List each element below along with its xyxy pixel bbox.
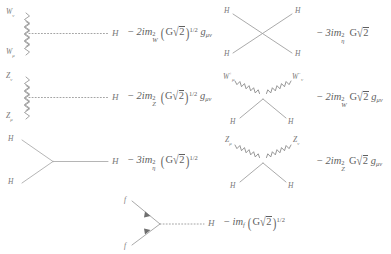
amplitude-quartic-higgs: − 3im2η G√2: [317, 27, 369, 39]
line-label-h-lower: H: [8, 178, 13, 186]
wavy-line-upper: [25, 77, 30, 111]
line-label-w-plus-mu: W+μ: [223, 72, 234, 83]
rule-higgs-higgs-z-z: Zμ Zν H H − 2im2Z G√2 gμν: [200, 128, 391, 192]
wavy-line-w-minus: [265, 78, 292, 97]
wavy-line-lower: [25, 22, 30, 56]
fermion-arrowhead-upper: [144, 212, 151, 218]
solid-line-upper: [22, 140, 53, 162]
line-label-w-mu: Wμ: [6, 48, 15, 58]
line-label-w-nu: Wν: [6, 8, 14, 18]
rule-higgs-higgs-w-w: W+μ W−ν H H − 2im2W G√2 gμν: [200, 64, 391, 128]
wavy-line-w-plus: [234, 78, 261, 97]
line-label-h: H: [112, 28, 119, 38]
amplitude-higgs-fermion-fermion: − imf (G√2)1/2: [224, 216, 285, 231]
rule-higgs-w-w: Wν Wμ H − 2im2W (G√2)1/2 gμν: [0, 0, 200, 64]
amplitude-triple-higgs: − 3im2η (G√2)1/2: [128, 154, 198, 169]
wavy-line-z-nu: [265, 142, 292, 161]
solid-h-line-right: [263, 163, 286, 182]
rule-higgs-fermion-fermion: f f H − imf (G√2)1/2: [100, 192, 340, 254]
solid-h-line-right: [263, 99, 286, 118]
line-label-h-top-left: H: [224, 7, 229, 15]
amplitude-higgs-higgs-w-w: − 2im2W G√2 gμν: [317, 91, 383, 104]
figure-canvas: Wν Wμ H − 2im2W (G√2)1/2 gμν H H H H − 3…: [0, 0, 391, 254]
line-label-h-out: H: [112, 156, 119, 166]
solid-h-line-left: [240, 163, 263, 182]
line-label-h: H: [208, 218, 215, 228]
diagram-higgs-fermion-fermion: [100, 192, 340, 254]
line-label-h-right: H: [288, 118, 293, 126]
line-label-h-right: H: [288, 182, 293, 190]
line-label-h-bottom-left: H: [224, 50, 229, 58]
line-label-z-mu: Zμ: [6, 112, 13, 122]
line-label-z-nu: Zν: [293, 136, 299, 146]
line-label-h-left: H: [230, 182, 235, 190]
rule-quartic-higgs: H H H H − 3im2η G√2: [200, 0, 391, 64]
line-label-fermion-upper: f: [124, 196, 126, 204]
amplitude-higgs-higgs-z-z: − 2im2Z G√2 gμν: [317, 155, 382, 168]
wavy-line-upper: [25, 13, 30, 47]
line-label-z-nu: Zν: [6, 72, 12, 82]
fermion-line-lower: [132, 224, 160, 245]
wavy-line-lower: [25, 86, 30, 120]
rule-higgs-z-z: Zν Zμ H − 2im2Z (G√2)1/2 gμν: [0, 64, 200, 128]
line-label-h-top-right: H: [295, 7, 300, 15]
line-label-w-minus-nu: W−ν: [292, 72, 303, 83]
line-label-fermion-lower: f: [124, 242, 126, 250]
line-label-z-mu: Zμ: [225, 136, 232, 146]
line-label-h: H: [112, 92, 119, 102]
amplitude-higgs-z-z: − 2im2Z (G√2)1/2 gμν: [128, 90, 211, 105]
line-label-h-bottom-right: H: [295, 50, 300, 58]
wavy-line-z-mu: [234, 142, 261, 161]
solid-line-lower: [22, 162, 53, 184]
rule-triple-higgs: H H H − 3im2η (G√2)1/2: [0, 128, 200, 192]
line-label-h-left: H: [230, 118, 235, 126]
solid-h-line-left: [240, 99, 263, 118]
line-label-h-upper: H: [8, 135, 13, 143]
